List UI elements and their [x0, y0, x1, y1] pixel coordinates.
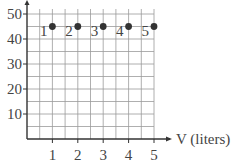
y-tick-labels: 1020304050 [7, 6, 22, 122]
y-tick-label: 20 [7, 81, 22, 97]
data-point-label: 4 [116, 23, 124, 39]
x-tick-label: 3 [99, 147, 107, 163]
x-axis-title: V (liters) [176, 131, 230, 148]
data-point-label: 2 [65, 23, 73, 39]
axes [23, 0, 172, 143]
data-point [151, 23, 158, 30]
y-tick-label: 10 [7, 106, 22, 122]
data-point [125, 23, 132, 30]
data-points: 12345 [40, 23, 158, 39]
x-tick-label: 2 [74, 147, 82, 163]
x-tick-label: 5 [150, 147, 158, 163]
y-tick-label: 50 [7, 6, 22, 22]
x-axis-arrow-icon [166, 137, 172, 142]
chart: 1020304050 12345 12345 V (liters) [0, 0, 231, 163]
y-tick-label: 30 [7, 56, 22, 72]
y-axis-arrow-icon [25, 0, 30, 5]
x-tick-label: 1 [49, 147, 57, 163]
data-point [100, 23, 107, 30]
data-point [49, 23, 56, 30]
data-point [74, 23, 81, 30]
data-point-label: 3 [91, 23, 99, 39]
data-point-label: 1 [40, 23, 48, 39]
y-tick-label: 40 [7, 31, 22, 47]
x-tick-label: 4 [125, 147, 133, 163]
data-point-label: 5 [142, 23, 150, 39]
x-tick-labels: 12345 [49, 147, 158, 163]
